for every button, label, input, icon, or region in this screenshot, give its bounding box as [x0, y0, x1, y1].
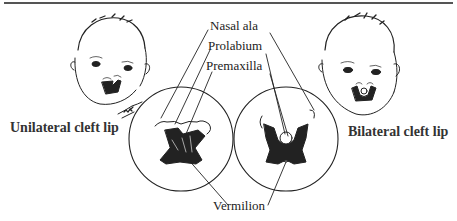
- label-vermilion: Vermilion: [213, 198, 265, 214]
- label-premaxilla: Premaxilla: [206, 58, 262, 74]
- right-infant-face: [319, 13, 400, 115]
- label-prolabium: Prolabium: [208, 38, 262, 54]
- left-infant-face: [71, 14, 150, 118]
- label-bilateral-cleft-lip: Bilateral cleft lip: [348, 124, 448, 140]
- left-detail-circle: [129, 87, 233, 191]
- right-detail-circle: [234, 87, 338, 191]
- leader-lines: [161, 30, 314, 205]
- label-unilateral-cleft-lip: Unilateral cleft lip: [10, 120, 119, 136]
- label-nasal-ala: Nasal ala: [210, 18, 258, 34]
